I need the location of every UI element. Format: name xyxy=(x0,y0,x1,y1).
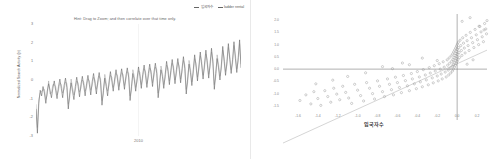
scatter-point xyxy=(475,34,477,36)
scatter-point xyxy=(345,91,347,93)
scatter-point xyxy=(485,33,487,35)
scatter-point xyxy=(442,61,444,63)
scatter-point xyxy=(464,52,466,54)
scatter-point xyxy=(365,82,367,84)
scatter-point xyxy=(462,42,464,44)
scatter-point xyxy=(474,28,476,30)
timeseries-y-tick: 0 xyxy=(25,78,33,82)
scatter-point xyxy=(432,82,434,84)
legend-label-1: ladder rental xyxy=(224,6,244,10)
scatter-panel[interactable]: ladder rental 입국자수 2.01.51.00.50.0-0.5-1… xyxy=(250,0,497,159)
scatter-point xyxy=(448,74,450,76)
scatter-point xyxy=(460,45,462,47)
legend: 입국자수 ladder rental xyxy=(194,6,244,10)
scatter-point xyxy=(458,56,460,58)
scatter-point xyxy=(467,45,469,47)
scatter-point xyxy=(310,103,312,105)
scatter-point xyxy=(408,64,410,66)
timeseries-x-tick: 2010 xyxy=(134,138,143,143)
zoom-hint-text: Hint: Drag to Zoom; and then correlate o… xyxy=(0,17,250,21)
scatter-point xyxy=(461,54,463,56)
scatter-point xyxy=(470,37,472,39)
scatter-point xyxy=(486,20,488,22)
scatter-point xyxy=(425,79,427,81)
scatter-point xyxy=(365,72,367,74)
scatter-point xyxy=(386,78,388,80)
scatter-point xyxy=(410,72,412,74)
timeseries-y-tick: 2 xyxy=(25,41,33,45)
scatter-point xyxy=(421,86,423,88)
legend-item-1[interactable]: ladder rental xyxy=(218,6,244,10)
scatter-point xyxy=(457,41,459,43)
scatter-point xyxy=(465,34,467,36)
scatter-point xyxy=(446,59,448,61)
scatter-point xyxy=(327,95,329,97)
scatter-point xyxy=(458,46,460,48)
timeseries-y-tick: 3 xyxy=(25,22,33,26)
scatter-point xyxy=(394,76,396,78)
scatter-point xyxy=(419,81,421,83)
scatter-point xyxy=(469,31,471,33)
scatter-point xyxy=(482,41,484,43)
legend-label-0: 입국자수 xyxy=(201,6,213,10)
scatter-point xyxy=(373,98,375,100)
scatter-point xyxy=(332,79,334,81)
scatter-point xyxy=(433,65,435,67)
scatter-point xyxy=(400,92,402,94)
line-swatch-icon xyxy=(194,7,199,8)
scatter-point xyxy=(368,87,370,89)
scatter-point xyxy=(472,42,474,44)
scatter-point xyxy=(351,102,353,104)
scatter-point xyxy=(472,59,474,61)
scatter-point xyxy=(408,90,410,92)
scatter-point xyxy=(440,73,442,75)
scatter-point xyxy=(429,72,431,74)
scatter-point xyxy=(443,66,445,68)
scatter-point xyxy=(396,82,398,84)
scatter-point xyxy=(390,89,392,91)
legend-item-0[interactable]: 입국자수 xyxy=(194,6,213,10)
scatter-point xyxy=(462,37,464,39)
scatter-point xyxy=(480,31,482,33)
scatter-point xyxy=(448,57,450,59)
scatter-point xyxy=(330,101,332,103)
scatter-point xyxy=(436,75,438,77)
scatter-point xyxy=(450,72,452,74)
scatter-point xyxy=(363,100,365,102)
timeseries-panel[interactable]: 입국자수 ladder rental Hint: Drag to Zoom; a… xyxy=(0,0,250,159)
scatter-point xyxy=(461,20,463,22)
scatter-point xyxy=(313,91,315,93)
scatter-point xyxy=(388,83,390,85)
scatter-point xyxy=(320,104,322,106)
scatter-point xyxy=(333,87,335,89)
dual-chart-view: 입국자수 ladder rental Hint: Drag to Zoom; a… xyxy=(0,0,497,159)
scatter-point xyxy=(466,40,468,42)
scatter-point xyxy=(324,90,326,92)
scatter-point xyxy=(416,70,418,72)
scatter-point xyxy=(421,57,423,59)
scatter-point xyxy=(342,85,344,87)
timeseries-y-tick: 1 xyxy=(25,59,33,63)
scatter-point xyxy=(401,62,403,64)
scatter-point xyxy=(447,64,449,66)
scatter-point xyxy=(357,89,359,91)
scatter-point xyxy=(484,22,486,24)
scatter-point xyxy=(468,49,470,51)
scatter-point xyxy=(415,88,417,90)
scatter-plot[interactable] xyxy=(250,0,497,159)
scatter-point xyxy=(431,77,433,79)
scatter-point xyxy=(466,63,468,65)
timeseries-plot[interactable] xyxy=(36,24,241,136)
scatter-point xyxy=(305,94,307,96)
scatter-point xyxy=(476,39,478,41)
scatter-point xyxy=(469,17,471,19)
scatter-point xyxy=(445,76,447,78)
scatter-point xyxy=(418,76,420,78)
scatter-point xyxy=(473,46,475,48)
scatter-point xyxy=(450,55,452,57)
scatter-point xyxy=(444,71,446,73)
scatter-point xyxy=(411,78,413,80)
scatter-point xyxy=(437,80,439,82)
scatter-point xyxy=(459,39,461,41)
scatter-point xyxy=(360,94,362,96)
